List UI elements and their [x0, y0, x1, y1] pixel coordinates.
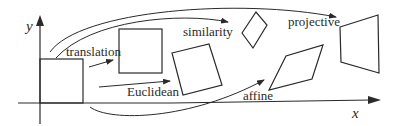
- y-axis-arrow-icon: [36, 15, 44, 26]
- y-axis-label: y: [24, 18, 33, 34]
- translation-square: [119, 29, 162, 73]
- projective-label: projective: [288, 14, 340, 29]
- affine-label: affine: [243, 88, 273, 103]
- translation-arrow-icon: [89, 60, 113, 67]
- original-square: [40, 59, 83, 103]
- affine-parallelogram: [269, 45, 323, 90]
- translation-label: translation: [66, 44, 121, 59]
- x-axis-label: x: [351, 105, 359, 121]
- x-axis-arrow-icon: [368, 96, 381, 104]
- similarity-label: similarity: [183, 24, 233, 39]
- projective-quadrilateral: [340, 15, 379, 73]
- transformation-diagram: y x translation Euclidean similarity aff…: [0, 0, 397, 126]
- euclidean-label: Euclidean: [127, 84, 179, 99]
- similarity-square: [242, 12, 267, 48]
- euclidean-square: [172, 44, 222, 95]
